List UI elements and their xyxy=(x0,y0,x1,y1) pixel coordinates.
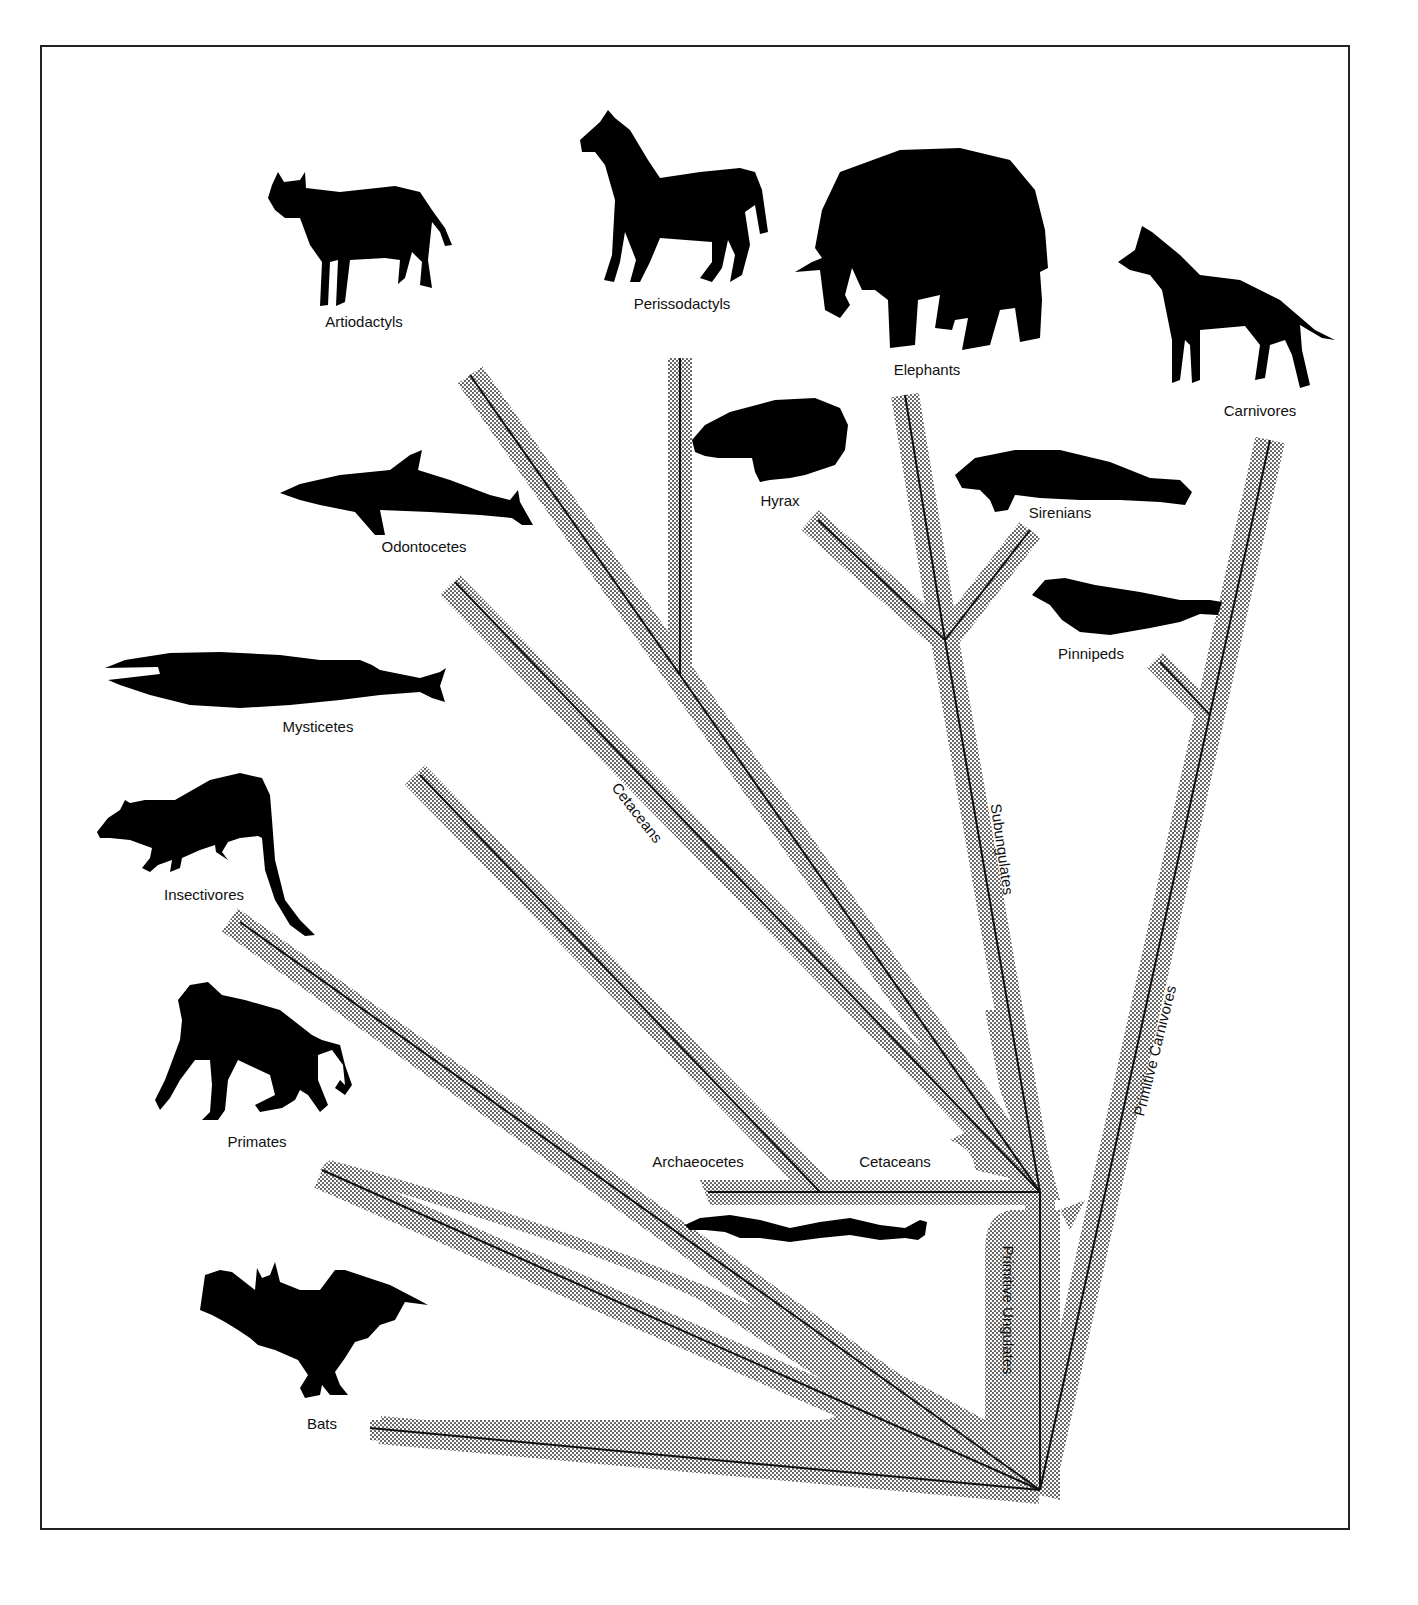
label-primitive-ungulates: Primitive Ungulates xyxy=(1000,1245,1017,1374)
diagram-canvas: Artiodactyls Perissodactyls Elephants Ca… xyxy=(0,0,1418,1605)
label-pinnipeds: Pinnipeds xyxy=(1058,645,1124,662)
seal-silhouette-icon xyxy=(1032,578,1222,635)
phylogeny-svg: Artiodactyls Perissodactyls Elephants Ca… xyxy=(0,0,1418,1605)
dolphin-silhouette-icon xyxy=(280,450,533,535)
label-archaeocetes: Archaeocetes xyxy=(652,1153,744,1170)
label-hyrax: Hyrax xyxy=(760,492,800,509)
label-artiodactyls: Artiodactyls xyxy=(325,313,403,330)
label-primates: Primates xyxy=(227,1133,286,1150)
basilosaurus-silhouette-icon xyxy=(685,1215,927,1242)
manatee-silhouette-icon xyxy=(955,450,1192,512)
elephant-silhouette-icon xyxy=(795,148,1048,350)
label-carnivores: Carnivores xyxy=(1224,402,1297,419)
label-elephants: Elephants xyxy=(894,361,961,378)
monkey-silhouette-icon xyxy=(155,982,352,1120)
hyrax-silhouette-icon xyxy=(692,398,848,482)
label-perissodactyls: Perissodactyls xyxy=(634,295,731,312)
bat-silhouette-icon xyxy=(200,1262,428,1398)
shrew-silhouette-icon xyxy=(97,773,315,936)
label-cetaceans-horizontal: Cetaceans xyxy=(859,1153,931,1170)
label-odontocetes: Odontocetes xyxy=(381,538,466,555)
cow-silhouette-icon xyxy=(268,172,452,306)
horse-silhouette-icon xyxy=(580,110,768,282)
label-bats: Bats xyxy=(307,1415,337,1432)
label-sirenians: Sirenians xyxy=(1029,504,1092,521)
label-insectivores: Insectivores xyxy=(164,886,244,903)
baleen-whale-silhouette-icon xyxy=(105,652,446,708)
label-mysticetes: Mysticetes xyxy=(283,718,354,735)
branch-halos xyxy=(230,358,1270,1500)
dog-silhouette-icon xyxy=(1118,226,1335,388)
